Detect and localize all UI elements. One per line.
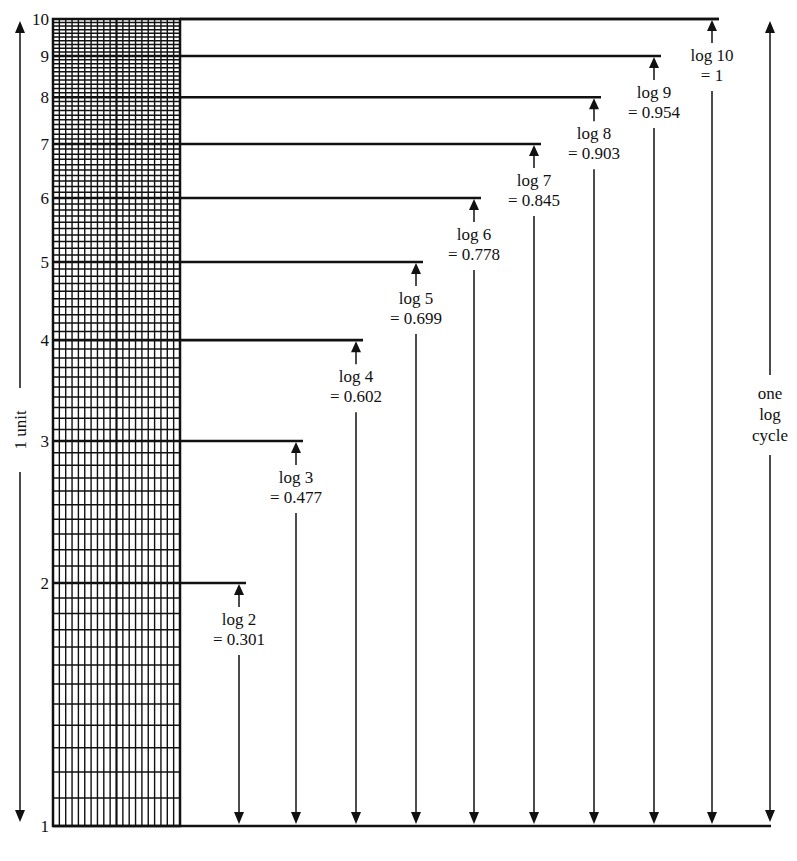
log-cycle-diagram: log 2= 0.301log 3= 0.477log 4= 0.602log … <box>0 0 797 861</box>
tick-labels: 12345678910 <box>32 10 50 836</box>
log-value: = 0.954 <box>628 103 681 122</box>
arrowhead-down-icon <box>707 812 717 824</box>
tick-label-9: 9 <box>41 47 50 66</box>
log-label: log 2 <box>222 610 256 629</box>
log-value: = 0.845 <box>508 191 560 210</box>
annotation-log-10: log 10= 1 <box>180 19 733 824</box>
log-value: = 0.301 <box>213 630 265 649</box>
annotation-log-2: log 2= 0.301 <box>180 583 265 824</box>
arrowhead-down-icon <box>15 810 25 822</box>
log-value: = 1 <box>701 66 723 85</box>
tick-label-8: 8 <box>41 88 50 107</box>
one-log-cycle-label: cycle <box>752 426 788 445</box>
annotation-log-6: log 6= 0.778 <box>180 198 500 824</box>
log-label: log 10 <box>691 46 734 65</box>
tick-label-6: 6 <box>41 189 50 208</box>
log-label: log 4 <box>339 367 374 386</box>
tick-label-3: 3 <box>41 432 50 451</box>
one-unit-axis: 1 unit <box>11 21 30 822</box>
one-unit-label: 1 unit <box>11 410 30 449</box>
arrowhead-down-icon <box>649 812 659 824</box>
one-log-cycle-label: one <box>758 384 783 403</box>
arrowhead-down-icon <box>351 812 361 824</box>
one-log-cycle-label: log <box>759 405 781 424</box>
arrowhead-down-icon <box>529 812 539 824</box>
log-label: log 6 <box>457 225 491 244</box>
tick-label-10: 10 <box>32 10 49 29</box>
annotation-log-7: log 7= 0.845 <box>180 144 560 824</box>
log-label: log 5 <box>399 289 433 308</box>
tick-label-2: 2 <box>41 574 50 593</box>
arrowhead-down-icon <box>765 810 775 822</box>
arrowhead-down-icon <box>291 812 301 824</box>
log-label: log 9 <box>637 83 671 102</box>
annotation-log-5: log 5= 0.699 <box>180 262 442 824</box>
arrowhead-down-icon <box>411 812 421 824</box>
diagram-canvas: log 2= 0.301log 3= 0.477log 4= 0.602log … <box>0 0 797 861</box>
log-label: log 7 <box>517 171 552 190</box>
one-log-cycle-axis: onelogcycle <box>752 21 788 822</box>
tick-label-5: 5 <box>41 253 50 272</box>
log-grid-paper <box>53 19 180 826</box>
log-label: log 8 <box>577 124 611 143</box>
tick-label-7: 7 <box>41 135 50 154</box>
log-value: = 0.477 <box>270 488 323 507</box>
log-value: = 0.903 <box>568 144 620 163</box>
log-value: = 0.602 <box>330 387 382 406</box>
tick-label-4: 4 <box>41 331 50 350</box>
log-label: log 3 <box>279 468 313 487</box>
arrowhead-down-icon <box>469 812 479 824</box>
arrowhead-down-icon <box>234 812 244 824</box>
arrowhead-down-icon <box>589 812 599 824</box>
tick-label-1: 1 <box>41 817 50 836</box>
log-value: = 0.699 <box>390 309 442 328</box>
log-value: = 0.778 <box>448 245 500 264</box>
